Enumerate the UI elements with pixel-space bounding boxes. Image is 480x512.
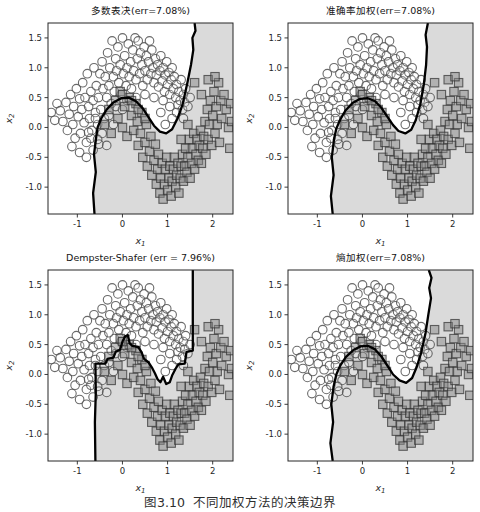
svg-text:0: 0 [360,466,365,476]
scatter-plot: -10121.51.00.50.0-0.5-1.0x1x2 [0,265,240,494]
svg-text:0.0: 0.0 [28,369,42,379]
svg-text:x2: x2 [3,360,16,372]
svg-text:-1: -1 [73,219,81,229]
subplot-title: 熵加权(err=7.08%) [288,247,473,265]
svg-text:-0.5: -0.5 [25,152,42,162]
svg-text:-0.5: -0.5 [25,399,42,409]
svg-text:1.5: 1.5 [28,280,42,290]
svg-text:2: 2 [450,219,455,229]
svg-text:-0.5: -0.5 [265,399,282,409]
svg-text:0.5: 0.5 [28,340,42,350]
svg-text:1: 1 [405,219,410,229]
svg-text:-1.0: -1.0 [25,429,42,439]
svg-text:1.5: 1.5 [268,33,282,43]
svg-text:0: 0 [360,219,365,229]
svg-text:x2: x2 [3,113,16,125]
svg-text:x1: x1 [374,482,385,494]
svg-text:1: 1 [405,466,410,476]
figure-3-10: 多数表决(err=7.08%) -10121.51.00.50.0-0.5-1.… [0,0,480,512]
subplot-dempster-shafer: Dempster-Shafer (err = 7.96%) -10121.51.… [0,247,240,494]
svg-text:1.0: 1.0 [268,63,282,73]
svg-text:0.0: 0.0 [28,122,42,132]
scatter-plot: -10121.51.00.50.0-0.5-1.0x1x2 [240,18,480,247]
svg-text:x1: x1 [134,482,145,494]
svg-text:0.5: 0.5 [28,93,42,103]
svg-text:0.0: 0.0 [268,122,282,132]
scatter-plot: -10121.51.00.50.0-0.5-1.0x1x2 [0,18,240,247]
svg-text:-1.0: -1.0 [265,182,282,192]
svg-text:x1: x1 [134,235,145,247]
svg-text:-1.0: -1.0 [265,429,282,439]
scatter-plot: -10121.51.00.50.0-0.5-1.0x1x2 [240,265,480,494]
svg-text:1.0: 1.0 [28,310,42,320]
svg-text:2: 2 [210,466,215,476]
svg-text:-1: -1 [313,466,321,476]
svg-text:1.5: 1.5 [268,280,282,290]
subplot-majority-voting: 多数表决(err=7.08%) -10121.51.00.50.0-0.5-1.… [0,0,240,247]
svg-text:2: 2 [210,219,215,229]
subplot-title: 多数表决(err=7.08%) [48,0,233,18]
figure-caption: 图3.10 不同加权方法的决策边界 [0,494,480,512]
svg-text:1.0: 1.0 [268,310,282,320]
svg-text:0.5: 0.5 [268,93,282,103]
svg-text:1.0: 1.0 [28,63,42,73]
svg-text:x2: x2 [243,113,256,125]
svg-text:2: 2 [450,466,455,476]
subplot-title: Dempster-Shafer (err = 7.96%) [48,247,233,265]
svg-text:-1.0: -1.0 [25,182,42,192]
svg-text:1.5: 1.5 [28,33,42,43]
svg-text:-1: -1 [73,466,81,476]
subplot-accuracy-weighted: 准确率加权(err=7.08%) -10121.51.00.50.0-0.5-1… [240,0,480,247]
svg-text:0: 0 [120,219,125,229]
svg-text:0.5: 0.5 [268,340,282,350]
svg-text:0: 0 [120,466,125,476]
svg-text:-0.5: -0.5 [265,152,282,162]
subplot-grid: 多数表决(err=7.08%) -10121.51.00.50.0-0.5-1.… [0,0,480,494]
svg-text:1: 1 [165,219,170,229]
svg-text:x1: x1 [374,235,385,247]
svg-text:0.0: 0.0 [268,369,282,379]
subplot-title: 准确率加权(err=7.08%) [288,0,473,18]
svg-text:1: 1 [165,466,170,476]
subplot-entropy-weighted: 熵加权(err=7.08%) -10121.51.00.50.0-0.5-1.0… [240,247,480,494]
svg-text:x2: x2 [243,360,256,372]
svg-text:-1: -1 [313,219,321,229]
